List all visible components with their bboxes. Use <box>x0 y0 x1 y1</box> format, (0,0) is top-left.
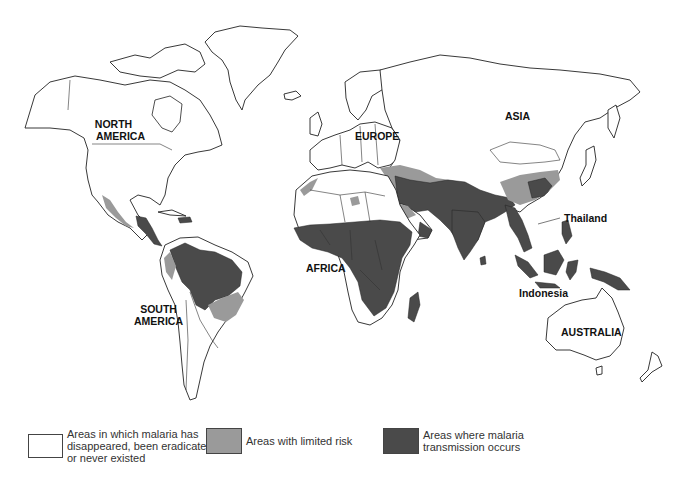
india-trans <box>452 210 485 260</box>
kamchatka <box>608 105 620 138</box>
label-thailand: Thailand <box>564 212 607 224</box>
legend-swatch-gray <box>206 428 242 454</box>
legend-label-limited-risk: Areas with limited risk <box>246 435 352 447</box>
legend-line: transmission occurs <box>423 441 524 453</box>
label-south-america-line1: SOUTH <box>134 303 183 315</box>
label-australia: AUSTRALIA <box>561 326 622 338</box>
legend-item-limited-risk: Areas with limited risk <box>206 428 352 454</box>
sulawesi <box>566 260 578 280</box>
label-asia: ASIA <box>505 110 530 122</box>
legend-line: or never existed <box>67 452 216 464</box>
greenland <box>205 26 298 110</box>
iceland <box>284 91 301 100</box>
new-zealand <box>640 352 662 382</box>
arctic-islands <box>110 44 205 78</box>
new-guinea <box>590 268 630 290</box>
legend-line: Areas where malaria <box>423 429 524 441</box>
label-indonesia: Indonesia <box>519 287 568 299</box>
thailand-leader <box>538 218 560 224</box>
label-south-america: SOUTH AMERICA <box>134 303 183 327</box>
japan <box>580 146 596 186</box>
hispaniola <box>178 217 192 223</box>
label-europe: EUROPE <box>355 130 399 142</box>
label-north-america-line2: AMERICA <box>96 130 145 142</box>
borneo <box>544 250 564 275</box>
legend-swatch-white <box>28 434 63 458</box>
north-america <box>25 76 222 240</box>
sumatra <box>515 255 538 278</box>
legend-line: Areas with limited risk <box>246 435 352 447</box>
legend-swatch-dark <box>383 428 419 454</box>
british-isles <box>310 112 322 136</box>
label-africa: AFRICA <box>306 262 346 274</box>
label-north-america: NORTH AMERICA <box>82 118 145 142</box>
legend-label-transmission: Areas where malaria transmission occurs <box>423 429 524 453</box>
sri-lanka <box>480 256 486 265</box>
legend-item-transmission: Areas where malaria transmission occurs <box>383 428 524 454</box>
legend-item-no-malaria: Areas in which malaria has disappeared, … <box>28 428 216 464</box>
label-south-america-line2: AMERICA <box>134 315 183 327</box>
label-north-america-line1: NORTH <box>82 118 145 130</box>
legend-line: Areas in which malaria has <box>67 428 216 440</box>
tasmania <box>596 366 602 375</box>
legend-line: disappeared, been eradicated, <box>67 440 216 452</box>
legend-label-no-malaria: Areas in which malaria has disappeared, … <box>67 428 216 464</box>
world-map <box>0 0 681 420</box>
cuba <box>158 210 186 216</box>
madagascar <box>408 292 420 322</box>
se-asia-trans <box>505 205 532 252</box>
